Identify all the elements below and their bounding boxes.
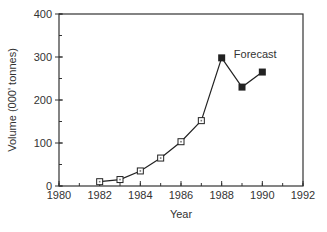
marker-dot (160, 157, 162, 159)
series-line-actual (100, 121, 202, 182)
plot-border (59, 14, 303, 186)
series-lines (100, 58, 263, 182)
x-axis-title: Year (170, 208, 193, 220)
line-chart: 1980198219841986198819901992 01002003004… (0, 0, 327, 232)
marker-dot (119, 179, 121, 181)
x-tick-label: 1986 (169, 189, 193, 201)
y-axis-title: Volume (000' tonnes) (6, 48, 18, 152)
filled-square-marker (218, 54, 225, 61)
marker-dot (140, 170, 142, 172)
x-tick-label: 1990 (250, 189, 274, 201)
plot-frame (59, 14, 303, 186)
y-tick-label: 400 (34, 8, 52, 20)
x-tick-label: 1992 (291, 189, 315, 201)
forecast-annotation: Forecast (234, 48, 277, 60)
x-tick-label: 1984 (128, 189, 152, 201)
y-tick-label: 100 (34, 137, 52, 149)
x-tick-label: 1988 (209, 189, 233, 201)
y-tick-label: 300 (34, 51, 52, 63)
marker-dot (99, 181, 101, 183)
filled-square-marker (259, 69, 266, 76)
series-markers (97, 54, 266, 184)
filled-square-marker (239, 84, 246, 91)
y-tick-label: 0 (46, 180, 52, 192)
marker-dot (180, 141, 182, 143)
x-tick-label: 1982 (87, 189, 111, 201)
series-line-forecast (201, 58, 262, 121)
chart-annotations: Forecast (234, 48, 277, 60)
x-axis-ticks: 1980198219841986198819901992 (47, 181, 315, 201)
y-tick-label: 200 (34, 94, 52, 106)
marker-dot (201, 120, 203, 122)
